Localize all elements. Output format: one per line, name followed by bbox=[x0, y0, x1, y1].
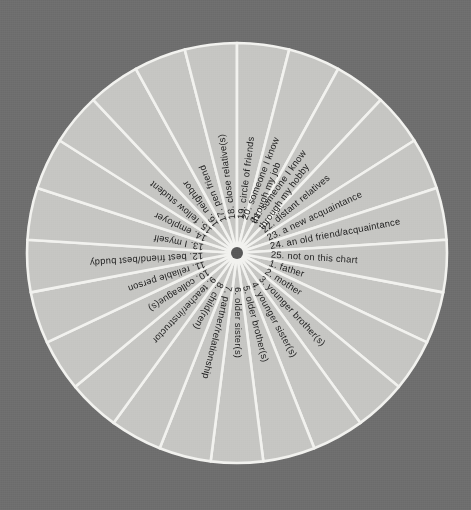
relationship-wheel: 1. father2. mother3. younger brother(s)4… bbox=[0, 0, 471, 510]
wheel-sector-label: 6. older sister(s) bbox=[233, 287, 244, 358]
wheel-hub-icon bbox=[231, 247, 243, 259]
wheel-svg: 1. father2. mother3. younger brother(s)4… bbox=[0, 0, 471, 510]
